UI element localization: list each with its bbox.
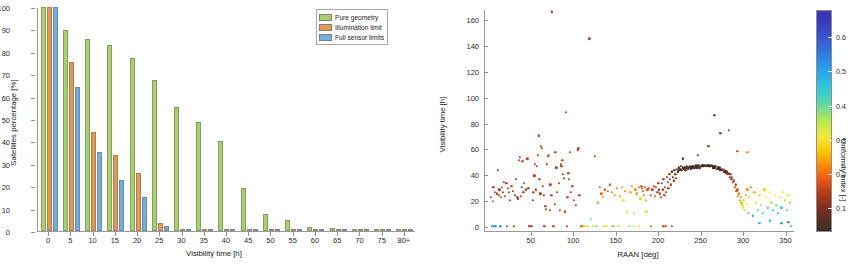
scatter-point — [537, 154, 539, 156]
scatter-x-tick-mark — [573, 232, 574, 236]
bar — [69, 62, 74, 231]
colorbar-container: Uniformity index [-] 0.10.20.30.40.50.6 — [816, 10, 832, 232]
scatter-point — [507, 187, 509, 189]
bar — [313, 229, 318, 231]
scatter-point — [553, 225, 555, 227]
bar — [358, 229, 363, 231]
scatter-chart-panel: 0204060801001201401605010015020025030035… — [428, 0, 855, 269]
bar-y-tick-label: 10 — [2, 205, 10, 214]
scatter-point — [745, 203, 747, 205]
bar-group — [60, 8, 82, 231]
scatter-y-tick-mark — [484, 98, 488, 99]
bar-group — [105, 8, 127, 231]
bar-group — [82, 8, 104, 231]
bar — [136, 173, 141, 231]
colorbar-tick-mark — [828, 37, 832, 38]
scatter-point — [751, 214, 753, 216]
bar — [408, 229, 413, 231]
scatter-point — [533, 174, 535, 176]
scatter-point — [738, 192, 740, 194]
bar-y-tick-mark — [31, 165, 35, 166]
bar — [53, 7, 58, 231]
scatter-point — [522, 191, 524, 193]
bar-y-axis-label: Satellites percentage [%] — [9, 63, 18, 183]
scatter-x-tick-mark — [658, 232, 659, 236]
scatter-point — [508, 191, 510, 193]
scatter-point — [491, 200, 493, 202]
scatter-y-tick-mark — [484, 124, 488, 125]
scatter-point — [573, 199, 575, 201]
scatter-point — [555, 167, 557, 169]
scatter-point — [498, 189, 500, 191]
scatter-point — [495, 225, 497, 227]
bar-group — [194, 8, 216, 231]
bar — [174, 107, 179, 231]
bar-y-tick-label: 20 — [2, 183, 10, 192]
scatter-point — [535, 189, 537, 191]
scatter-point — [551, 10, 553, 12]
bar-group — [149, 8, 171, 231]
bar — [330, 228, 335, 231]
bar — [158, 223, 163, 232]
scatter-x-tick-label: 50 — [527, 236, 535, 245]
scatter-point — [520, 186, 522, 188]
scatter-point — [556, 191, 558, 193]
scatter-point — [542, 185, 544, 187]
bar — [396, 229, 401, 231]
scatter-point — [768, 220, 770, 222]
scatter-point — [500, 196, 502, 198]
scatter-y-tick-mark — [484, 20, 488, 21]
bar — [218, 141, 223, 231]
scatter-point — [748, 196, 750, 198]
scatter-point — [770, 201, 772, 203]
scatter-point — [614, 194, 616, 196]
scatter-point — [521, 160, 523, 162]
bar-chart-legend: Pure geometryIllumination limitFull sens… — [316, 9, 388, 45]
legend-swatch-icon — [319, 14, 332, 21]
bar-x-axis-label: Visibility time [h] — [0, 249, 428, 258]
bar — [364, 229, 369, 231]
figure-container: 05101520253035404550556065707580+0102030… — [0, 0, 855, 269]
scatter-x-tick-label: 150 — [609, 236, 622, 245]
bar-x-tick-mark — [226, 232, 227, 236]
scatter-point — [649, 225, 651, 227]
scatter-point — [746, 189, 748, 191]
scatter-point — [561, 159, 563, 161]
scatter-point — [634, 189, 636, 191]
scatter-point — [645, 210, 647, 212]
scatter-point — [654, 195, 656, 197]
scatter-point — [519, 156, 521, 158]
bar-x-tick-mark — [70, 232, 71, 236]
scatter-point — [762, 212, 764, 214]
bar — [380, 229, 385, 231]
scatter-point — [532, 191, 534, 193]
bar — [180, 229, 185, 231]
legend-item: Full sensor limits — [319, 32, 384, 42]
bar — [208, 229, 213, 231]
scatter-point — [753, 191, 755, 193]
scatter-point — [538, 178, 540, 180]
scatter-point — [490, 196, 492, 198]
colorbar-tick-label: 0.3 — [836, 135, 846, 144]
scatter-point — [502, 191, 504, 193]
bar — [402, 229, 407, 231]
scatter-point — [658, 189, 660, 191]
scatter-point — [697, 154, 699, 156]
scatter-point — [506, 225, 508, 227]
scatter-y-tick-label: 20 — [455, 197, 479, 206]
scatter-point — [559, 209, 561, 211]
scatter-point — [531, 225, 533, 227]
scatter-point — [784, 199, 786, 201]
scatter-point — [501, 186, 503, 188]
bar-y-tick-label: 0 — [6, 228, 10, 237]
scatter-point — [657, 182, 659, 184]
scatter-point — [664, 186, 666, 188]
scatter-point — [575, 204, 577, 206]
scatter-point — [595, 225, 597, 227]
scatter-point — [790, 225, 792, 227]
bar-x-tick-mark — [159, 232, 160, 236]
bar-y-tick-mark — [31, 75, 35, 76]
bar — [75, 87, 80, 231]
bar-x-tick-label: 75 — [377, 236, 385, 245]
bar — [196, 122, 201, 231]
